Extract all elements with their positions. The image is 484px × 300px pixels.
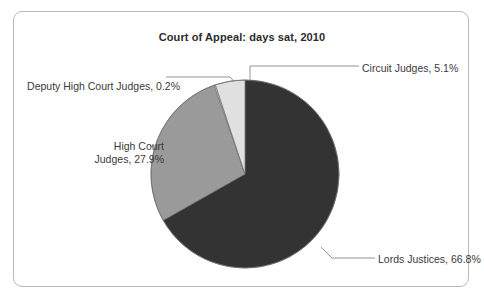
pie-label-high-court-judges-line2: Judges, 27.9% (95, 153, 164, 166)
pie-label-lords-justices: Lords Justices, 66.8% (378, 253, 481, 266)
chart-card: Court of Appeal: days sat, 2010 (13, 11, 469, 287)
pie-label-high-court-judges: High Court Judges, 27.9% (95, 140, 164, 166)
pie-label-deputy-high-court-judges: Deputy High Court Judges, 0.2% (27, 80, 180, 93)
pie-label-circuit-judges: Circuit Judges, 5.1% (362, 62, 458, 75)
pie-label-high-court-judges-line1: High Court (95, 140, 164, 153)
leader-line-lords-justices (321, 247, 375, 258)
pie-slices (151, 80, 339, 268)
pie-chart-svg (14, 12, 470, 288)
pie-chart-plot-area: Circuit Judges, 5.1% Deputy High Court J… (14, 12, 470, 288)
